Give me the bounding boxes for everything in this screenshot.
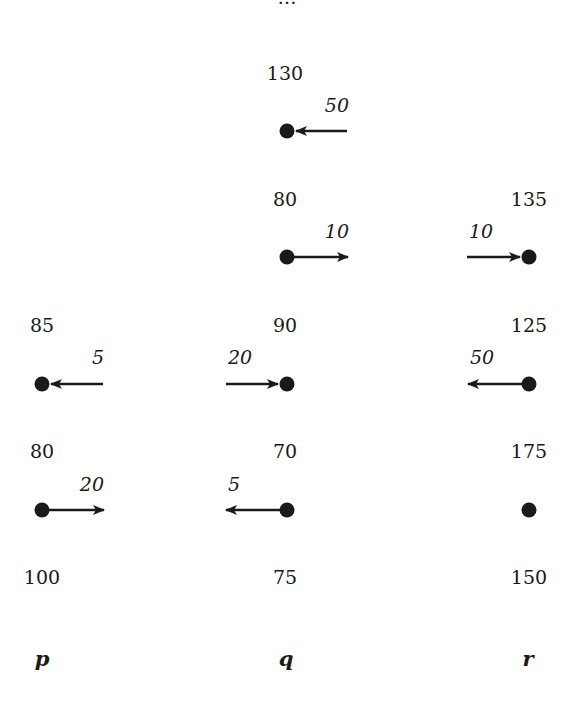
node-p-row4 [35, 503, 50, 518]
node-q-row2 [280, 250, 295, 265]
value-q-row4: 70 [273, 440, 297, 462]
value-q-top: 130 [267, 62, 303, 84]
node-r-row4 [522, 503, 537, 518]
value-p-row3: 85 [30, 314, 54, 336]
column-label-r: r [522, 646, 535, 671]
cut-off-top-label: … [278, 0, 297, 8]
value-q-row3: 90 [273, 314, 297, 336]
arrow-label-q-row3: 20 [227, 346, 252, 368]
arrow-label-q-row1: 50 [325, 94, 349, 116]
value-r-bottom: 150 [511, 566, 547, 588]
value-q-bottom: 75 [273, 566, 297, 588]
arrow-label-q-row2: 10 [325, 220, 349, 242]
arrow-label-r-row3: 50 [470, 346, 494, 368]
arrow-label-r-row2: 10 [469, 220, 493, 242]
value-r-row2: 135 [511, 188, 547, 210]
node-q-row1 [280, 124, 295, 139]
flow-diagram: … 130 50 80 135 10 10 85 90 125 5 20 50 … [0, 0, 566, 712]
node-p-row3 [35, 377, 50, 392]
node-r-row2 [522, 250, 537, 265]
value-r-row4: 175 [511, 440, 547, 462]
arrow-label-p-row4: 20 [79, 473, 104, 495]
node-q-row3 [280, 377, 295, 392]
value-r-row3: 125 [511, 314, 547, 336]
arrow-label-p-row3: 5 [92, 346, 104, 368]
column-label-p: p [35, 646, 50, 671]
value-q-row2: 80 [273, 188, 297, 210]
column-label-q: q [279, 646, 294, 671]
node-r-row3 [522, 377, 537, 392]
node-q-row4 [280, 503, 295, 518]
value-p-row4: 80 [30, 440, 54, 462]
arrow-label-q-row4: 5 [228, 473, 240, 495]
value-p-bottom: 100 [24, 566, 60, 588]
